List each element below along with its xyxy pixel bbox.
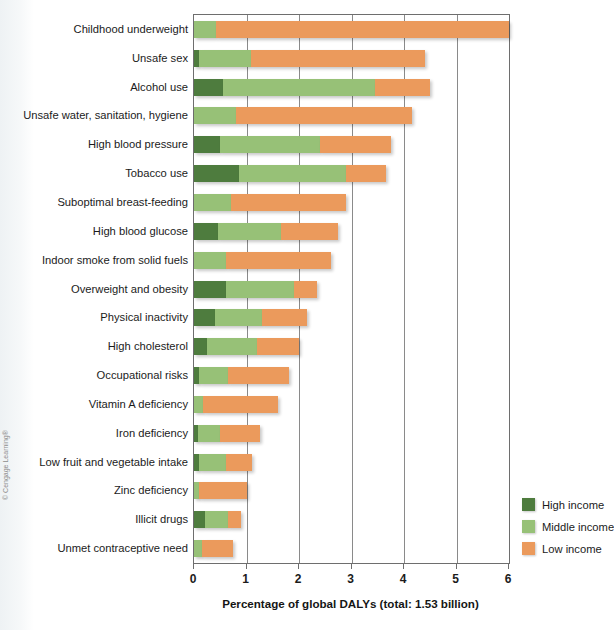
bar-row — [194, 454, 252, 471]
bar-segment-low — [202, 540, 234, 557]
bar-row — [194, 50, 425, 67]
bar-row — [194, 367, 289, 384]
bar-segment-middle — [239, 165, 347, 182]
bar-segment-low — [346, 165, 385, 182]
category-label: Tobacco use — [18, 167, 188, 179]
bar-segment-middle — [198, 425, 221, 442]
tick-mark — [351, 563, 352, 569]
bar-segment-middle — [199, 367, 228, 384]
category-label: Physical inactivity — [18, 311, 188, 323]
tick-mark — [193, 563, 194, 569]
category-label: Indoor smoke from solid fuels — [18, 254, 188, 266]
bar-row — [194, 252, 331, 269]
legend-label: Middle income — [542, 521, 614, 533]
category-label: Overweight and obesity — [18, 283, 188, 295]
bar-segment-middle — [205, 511, 229, 528]
bar-segment-low — [236, 107, 412, 124]
tick-label: 3 — [339, 572, 363, 586]
bar-segment-high — [194, 165, 239, 182]
bar-segment-middle — [194, 252, 226, 269]
bar-segment-middle — [199, 454, 225, 471]
bar-segment-middle — [199, 50, 250, 67]
bar-row — [194, 309, 307, 326]
category-label: High blood glucose — [18, 225, 188, 237]
bar-segment-low — [262, 309, 307, 326]
bar-segment-low — [226, 454, 252, 471]
legend-item: Low income — [522, 542, 614, 555]
bar-segment-middle — [194, 194, 231, 211]
category-label: Zinc deficiency — [18, 484, 188, 496]
bar-row — [194, 136, 391, 153]
category-label: Illicit drugs — [18, 513, 188, 525]
tick-mark — [456, 563, 457, 569]
category-label: Alcohol use — [18, 81, 188, 93]
tick-label: 6 — [496, 572, 520, 586]
bar-row — [194, 338, 299, 355]
bar-segment-low — [231, 194, 347, 211]
bar-row — [194, 194, 346, 211]
category-label: High blood pressure — [18, 138, 188, 150]
bar-segment-middle — [215, 309, 262, 326]
plot-area — [193, 14, 510, 564]
bar-segment-middle — [218, 223, 281, 240]
category-label: Unsafe water, sanitation, hygiene — [18, 109, 188, 121]
bar-row — [194, 511, 241, 528]
bar-row — [194, 396, 278, 413]
bar-row — [194, 79, 430, 96]
bar-segment-low — [228, 367, 288, 384]
gridline — [457, 15, 458, 563]
bar-segment-low — [251, 50, 425, 67]
bar-segment-high — [194, 223, 218, 240]
bar-row — [194, 281, 317, 298]
legend-swatch-low — [522, 542, 535, 555]
bar-row — [194, 165, 386, 182]
category-label: Unsafe sex — [18, 52, 188, 64]
gridline — [352, 15, 353, 563]
bar-segment-high — [194, 309, 215, 326]
bar-segment-high — [194, 79, 223, 96]
bar-segment-middle — [223, 79, 375, 96]
tick-mark — [246, 563, 247, 569]
category-label: Childhood underweight — [18, 23, 188, 35]
bar-segment-middle — [226, 281, 294, 298]
bar-segment-high — [194, 281, 226, 298]
bar-row — [194, 482, 247, 499]
bar-segment-middle — [194, 540, 202, 557]
tick-mark — [403, 563, 404, 569]
bar-segment-low — [203, 396, 278, 413]
bar-segment-low — [375, 79, 430, 96]
category-label: Iron deficiency — [18, 427, 188, 439]
category-label: High cholesterol — [18, 340, 188, 352]
x-axis-title: Percentage of global DALYs (total: 1.53 … — [193, 597, 508, 610]
chart-legend: High incomeMiddle incomeLow income — [522, 498, 614, 564]
category-label: Suboptimal breast-feeding — [18, 196, 188, 208]
bar-row — [194, 540, 233, 557]
bar-segment-low — [216, 21, 509, 38]
legend-label: High income — [542, 499, 604, 511]
bar-segment-low — [294, 281, 318, 298]
bar-segment-low — [320, 136, 391, 153]
bar-segment-high — [194, 511, 205, 528]
tick-label: 0 — [181, 572, 205, 586]
tick-label: 4 — [391, 572, 415, 586]
tick-mark — [298, 563, 299, 569]
tick-mark — [508, 563, 509, 569]
bar-segment-middle — [194, 21, 216, 38]
legend-swatch-middle — [522, 520, 535, 533]
bar-segment-middle — [194, 396, 203, 413]
bar-segment-low — [199, 482, 246, 499]
bar-segment-middle — [194, 107, 236, 124]
bar-segment-low — [220, 425, 259, 442]
tick-label: 1 — [234, 572, 258, 586]
bar-row — [194, 425, 260, 442]
tick-label: 2 — [286, 572, 310, 586]
bar-segment-low — [257, 338, 299, 355]
legend-label: Low income — [542, 543, 602, 555]
bar-segment-middle — [207, 338, 257, 355]
category-label: Unmet contraceptive need — [18, 542, 188, 554]
legend-item: High income — [522, 498, 614, 511]
bar-segment-middle — [220, 136, 320, 153]
copyright-credit: © Cengage Learning® — [2, 430, 9, 500]
bar-segment-high — [194, 338, 207, 355]
